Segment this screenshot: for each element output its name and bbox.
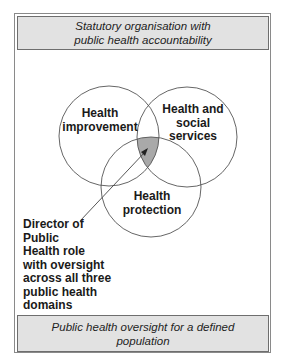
callout-line: public health	[23, 286, 111, 300]
callout-line: domains	[23, 299, 111, 313]
label-line: social	[162, 117, 223, 131]
callout-line: Director of	[23, 218, 111, 232]
label-line: Health	[123, 190, 182, 204]
circle-health-improvement	[59, 86, 159, 186]
footer-banner-line-1: Public health oversight for a defined	[52, 320, 235, 334]
label-line: services	[162, 130, 223, 144]
label-health-and-social-services: Health and social services	[162, 103, 223, 144]
director-callout-text: Director of Public Health role with over…	[23, 218, 111, 313]
label-line: improvement	[62, 121, 137, 135]
callout-line: Public	[23, 232, 111, 246]
label-health-improvement: Health improvement	[62, 107, 137, 134]
label-line: Health	[62, 107, 137, 121]
callout-line: Health role	[23, 245, 111, 259]
callout-line: with oversight	[23, 259, 111, 273]
footer-banner-line-2: population	[116, 334, 169, 348]
label-line: protection	[123, 204, 182, 218]
label-health-protection: Health protection	[123, 190, 182, 217]
callout-line: across all three	[23, 272, 111, 286]
label-line: Health and	[162, 103, 223, 117]
footer-banner: Public health oversight for a defined po…	[17, 315, 269, 352]
